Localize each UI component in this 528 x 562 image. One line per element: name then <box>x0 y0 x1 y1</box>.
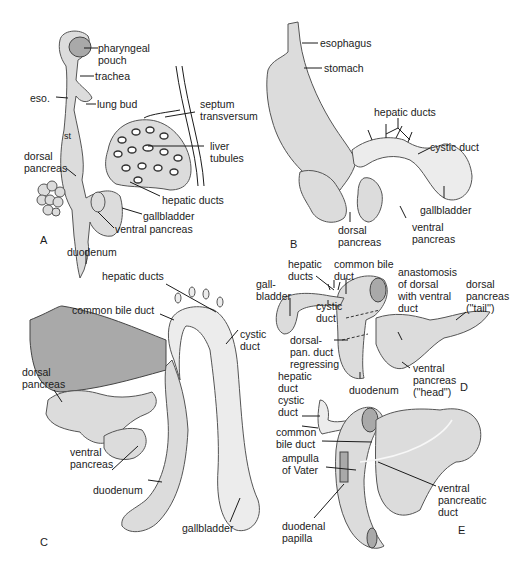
label-duodenum-a: duodenum <box>67 246 117 258</box>
label-duodenum-c: duodenum <box>93 484 143 496</box>
panel-b-drawing <box>267 22 472 222</box>
label-esophagus-abbrev: eso. <box>30 92 50 104</box>
label-hepatic-ducts-c: hepatic ducts <box>102 270 164 282</box>
label-trachea: trachea <box>95 70 130 82</box>
label-septum-transversum: septum transversum <box>200 98 258 122</box>
label-stomach-abbrev: st <box>64 130 71 142</box>
label-ventral-pancreas-head: ventral pancreas (''head'') <box>413 362 456 398</box>
label-ventral-pancreas-a: ventral pancreas <box>115 223 193 235</box>
label-duodenal-papilla: duodenal papilla <box>282 520 325 544</box>
label-common-bile-duct-e: common bile duct <box>276 426 316 450</box>
panel-letter-a: A <box>40 234 47 246</box>
label-ampulla-of-vater: ampulla of Vater <box>282 452 319 476</box>
label-dorsal-pancreas-b: dorsal pancreas <box>338 224 381 248</box>
label-hepatic-ducts-d: hepatic ducts <box>288 258 322 282</box>
label-cystic-duct-d: cystic duct <box>316 300 342 324</box>
panel-e-drawing <box>302 400 481 548</box>
embryology-figure: pharyngeal pouch trachea eso. lung bud s… <box>0 0 528 562</box>
label-dorsal-pancreas-a: dorsal pancreas <box>24 150 67 174</box>
label-esophagus-b: esophagus <box>320 37 371 49</box>
label-dorsal-pancreas-c: dorsal pancreas <box>22 366 65 390</box>
label-stomach-b: stomach <box>324 62 364 74</box>
panel-letter-b: B <box>290 238 297 250</box>
panel-c-drawing <box>30 284 259 532</box>
label-gallbladder-b: gallbladder <box>420 204 471 216</box>
label-ventral-pancreas-b: ventral pancreas <box>412 221 455 245</box>
panel-letter-c: C <box>40 536 48 548</box>
panel-letter-d: D <box>460 381 468 393</box>
label-cystic-duct-b: cystic duct <box>430 141 479 153</box>
label-common-bile-duct-c: common bile duct <box>72 304 154 316</box>
label-liver-tubules: liver tubules <box>210 140 244 164</box>
panel-letter-e: E <box>458 524 465 536</box>
label-hepatic-ducts-a: hepatic ducts <box>162 194 224 206</box>
label-common-bile-duct-d: common bile duct <box>334 258 394 282</box>
label-ventral-pancreas-c: ventral pancreas <box>70 446 113 470</box>
label-hepatic-ducts-b: hepatic ducts <box>374 106 436 118</box>
label-dorsal-pan-duct-regressing: dorsal- pan. duct regressing <box>290 334 339 370</box>
label-ventral-pancreatic-duct: ventral pancreatic duct <box>438 482 486 518</box>
label-anastomosis: anastomosis of dorsal with ventral duct <box>398 266 457 314</box>
label-cystic-duct-c: cystic duct <box>240 328 266 352</box>
label-dorsal-pancreas-tail: dorsal pancreas (''tail'') <box>466 278 509 314</box>
label-gallbladder-d: gall- bladder <box>256 278 291 302</box>
label-lung-bud: lung bud <box>97 98 137 110</box>
label-hepatic-duct-e: hepatic duct <box>278 370 312 394</box>
label-duodenum-d: duodenum <box>349 384 399 396</box>
label-gallbladder-c: gallbladder <box>182 522 233 534</box>
label-gallbladder-a: gallbladder <box>143 210 194 222</box>
label-cystic-duct-e: cystic duct <box>278 394 304 418</box>
label-pharyngeal-pouch: pharyngeal pouch <box>98 42 150 66</box>
